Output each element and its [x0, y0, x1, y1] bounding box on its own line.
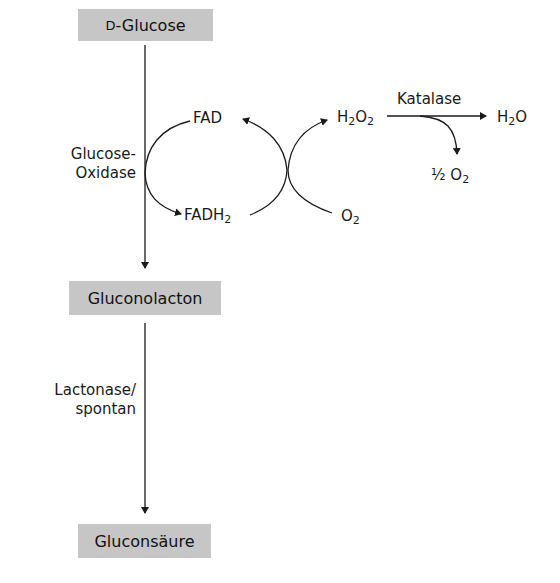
- enzyme-line-1: Glucose-: [44, 145, 136, 164]
- molecule-h2o: H2O: [497, 108, 527, 127]
- enzyme-katalase: Katalase: [397, 90, 461, 109]
- o2-o: O: [341, 207, 353, 225]
- enzyme-line-2: spontan: [20, 400, 136, 419]
- molecule-o2: O2: [341, 207, 360, 226]
- node-d-glucose: D-Glucose: [78, 9, 213, 41]
- h2o2-h: H: [337, 108, 348, 126]
- fad-label: FAD: [193, 109, 222, 127]
- fadh2-base: FADH: [184, 206, 224, 224]
- h2o-h: H: [497, 108, 508, 126]
- molecule-half-o2: ½ O2: [431, 166, 469, 185]
- h2o2-o: O: [355, 108, 367, 126]
- glucose-label: -Glucose: [115, 16, 185, 35]
- fadh2-subscript: 2: [224, 213, 231, 226]
- arc-fadh2-to-fad: [243, 119, 287, 215]
- half-o2-sub: 2: [462, 173, 469, 186]
- arc-fad-to-fadh2: [145, 121, 190, 214]
- enzyme-glucose-oxidase: Glucose- Oxidase: [44, 145, 136, 183]
- h2o2-sub2: 2: [367, 115, 374, 128]
- molecule-h2o2: H2O2: [337, 108, 374, 127]
- node-gluconsaeure: Gluconsäure: [78, 524, 211, 558]
- gluconsaeure-label: Gluconsäure: [94, 532, 194, 551]
- o2-sub: 2: [353, 214, 360, 227]
- gluconolacton-label: Gluconolacton: [88, 289, 203, 308]
- enzyme-line-1: Lactonase/: [20, 381, 136, 400]
- arc-o2-to-h2o2: [288, 120, 332, 213]
- d-prefix: D: [105, 18, 115, 33]
- katalase-label: Katalase: [397, 90, 461, 108]
- node-gluconolacton: Gluconolacton: [69, 281, 221, 315]
- arrow-to-half-o2: [420, 116, 457, 154]
- half-o2-prefix: ½ O: [431, 166, 462, 184]
- h2o-o: O: [515, 108, 527, 126]
- cofactor-fad: FAD: [193, 109, 222, 128]
- enzyme-lactonase: Lactonase/ spontan: [20, 381, 136, 419]
- cofactor-fadh2: FADH2: [184, 206, 231, 225]
- enzyme-line-2: Oxidase: [44, 164, 136, 183]
